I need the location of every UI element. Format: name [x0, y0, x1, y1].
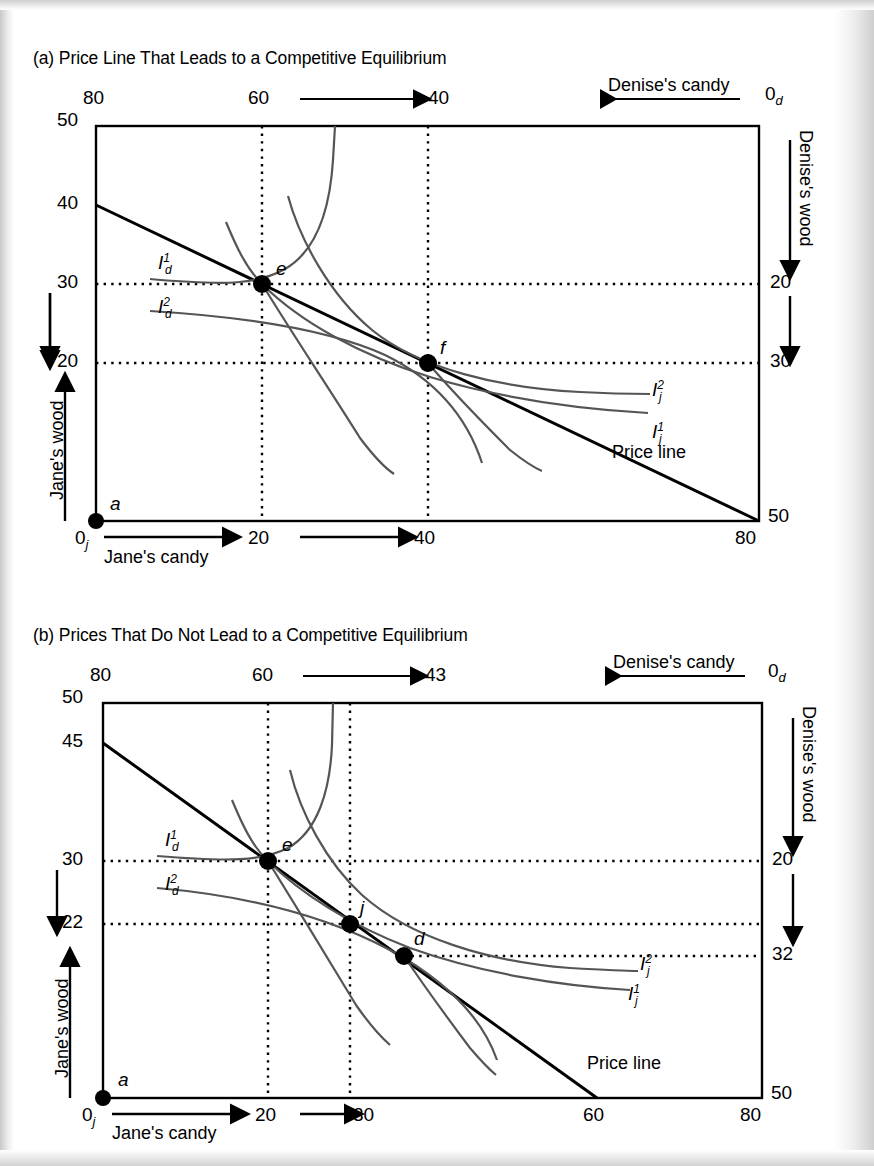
panel-a-top-tick-60: 60 [248, 88, 269, 107]
panel-a-curve-label-Ij2: I2j [652, 378, 662, 404]
panel-b-right-tick-32: 32 [772, 944, 793, 963]
panel-b-origin-denise-zero: 0 [768, 660, 779, 681]
panel-b-price-line-label: Price line [587, 1054, 661, 1072]
panel-b-point-label-j: j [360, 897, 364, 919]
panel-b-curve-Id1 [157, 703, 333, 860]
panel-a-origin-denise: 0d [765, 83, 783, 108]
panel-b-plot-box [103, 703, 762, 1098]
panel-b-curve-Id1-tail [268, 861, 390, 1045]
panel-a-right-tick-30: 30 [770, 351, 791, 370]
panel-a-curve-Id2 [150, 311, 482, 463]
panel-b-bottom-tick-20: 20 [255, 1105, 276, 1124]
panel-a-point-a [88, 513, 104, 529]
panel-b-bottom-tick-80: 80 [740, 1105, 761, 1124]
panel-b-curve-label-Ij2-sub: j [647, 964, 650, 978]
panel-b-bottom-tick-30: 30 [353, 1105, 374, 1124]
panel-a-left-tick-30: 30 [57, 272, 78, 291]
panel-b-origin-jane: 0j [82, 1104, 95, 1129]
panel-b-curve-label-Id2-sub: d [172, 884, 179, 898]
panel-a-top-tick-80: 80 [83, 88, 104, 107]
panel-a-point-label-a: a [110, 493, 121, 515]
panel-a-curve-label-Id2: I2d [158, 295, 172, 321]
panel-b-left-tick-30: 30 [62, 849, 83, 868]
panel-b-curve-Ij2 [290, 770, 638, 971]
panel-b-bottom-axis-label: Jane's candy [112, 1124, 217, 1142]
panel-b-curve-label-Ij2: I2j [640, 952, 650, 978]
panel-b-origin-jane-zero: 0 [82, 1104, 93, 1125]
panel-b-top-tick-43: 43 [425, 665, 446, 684]
panel-a-point-e [253, 275, 271, 293]
panel-b-bottom-tick-60: 60 [583, 1105, 604, 1124]
panel-a-right-tick-50: 50 [768, 506, 789, 525]
panel-a-point-label-e: e [276, 258, 287, 280]
panel-b-point-label-e: e [282, 834, 293, 856]
panel-a-curve-Ij2 [288, 196, 650, 394]
panel-b-curve-Ij1 [232, 800, 630, 990]
panel-b-origin-denise: 0d [768, 660, 786, 685]
panel-a-origin-jane-sub: j [86, 537, 89, 552]
panel-b-point-d [395, 947, 413, 965]
panel-a-curve-label-Id1: I1d [158, 251, 172, 277]
panel-a-top-tick-40: 40 [428, 88, 449, 107]
panel-b-curve-Id2 [157, 888, 497, 1060]
panel-b-curve-label-Id2: I2d [165, 872, 179, 898]
panel-a-left-tick-50: 50 [57, 110, 78, 129]
panel-b-curve-label-Id1: I1d [165, 828, 179, 854]
panel-b-curve-label-Id1-sub: d [172, 840, 179, 854]
panel-a-curve-label-Id1-sub: d [165, 263, 172, 277]
panel-b-curve-label-Ij1-sub: j [635, 994, 638, 1008]
panel-b-top-tick-60: 60 [252, 665, 273, 684]
panel-a-bottom-tick-20: 20 [248, 528, 269, 547]
panel-b-point-a [95, 1090, 111, 1106]
panel-a-curve-Ij1 [226, 222, 648, 413]
panel-b-right-axis-label: Denise's wood [798, 706, 819, 823]
panel-b-left-tick-45: 45 [62, 731, 83, 750]
panel-b-left-axis-label: Jane's wood [52, 978, 73, 1078]
panel-b-point-e [259, 852, 277, 870]
panel-b-top-tick-80: 80 [90, 665, 111, 684]
panel-a-curve-label-Id2-sub: d [165, 307, 172, 321]
panel-a-curve-Id1-tail [262, 284, 394, 474]
panel-a-graphics [0, 0, 874, 1166]
panel-a-right-axis-label: Denise's wood [795, 130, 816, 247]
panel-b-top-axis-label: Denise's candy [613, 653, 735, 671]
panel-a-origin-denise-sub: d [776, 93, 783, 108]
panel-b-title: (b) Prices That Do Not Lead to a Competi… [33, 625, 468, 646]
panel-a-right-tick-20: 20 [770, 272, 791, 291]
panel-b-right-tick-20: 20 [772, 849, 793, 868]
panel-a-point-label-f: f [440, 337, 445, 359]
panel-a-price-line-label: Price line [612, 443, 686, 461]
panel-a-point-f [419, 354, 437, 372]
panel-a-bottom-axis-label: Jane's candy [104, 548, 209, 566]
panel-a-left-tick-20: 20 [57, 351, 78, 370]
panel-b-left-tick-22: 22 [62, 912, 83, 931]
panel-b-right-tick-50: 50 [771, 1083, 792, 1102]
panel-a-curve-label-Ij2-sub: j [659, 390, 662, 404]
panel-b-point-label-d: d [414, 928, 425, 950]
panel-a-bottom-tick-80: 80 [735, 528, 756, 547]
panel-b-left-tick-50: 50 [62, 687, 83, 706]
panel-a-left-axis-label: Jane's wood [47, 400, 68, 500]
panel-a-origin-jane: 0j [75, 527, 88, 552]
figure-page: (a) Price Line That Leads to a Competiti… [0, 0, 874, 1166]
panel-a-origin-denise-zero: 0 [765, 83, 776, 104]
panel-a-bottom-tick-40: 40 [414, 528, 435, 547]
panel-b-curve-label-Ij1: I1j [628, 982, 638, 1008]
panel-a-left-tick-40: 40 [57, 193, 78, 212]
panel-b-point-label-a: a [118, 1069, 129, 1091]
panel-a-origin-jane-zero: 0 [75, 527, 86, 548]
panel-b-origin-denise-sub: d [779, 670, 786, 685]
panel-b-point-j [341, 915, 359, 933]
panel-b-origin-jane-sub: j [93, 1114, 96, 1129]
